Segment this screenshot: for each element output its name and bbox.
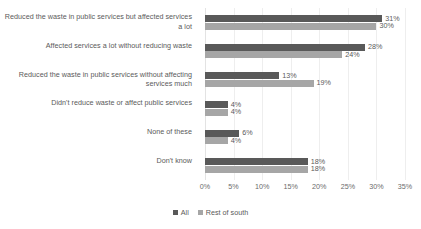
axis-tick-label: 10% [255,182,269,191]
axis-tick-label: 30% [369,182,383,191]
legend-label: Rest of south [206,208,248,217]
axis-tick-label: 5% [228,182,238,191]
gridline-15% [291,8,292,180]
legend-item[interactable]: Rest of south [198,208,248,217]
bar-rest-of-south [205,80,314,87]
bar-all [205,72,279,79]
bar-group: 28%24% [205,44,405,59]
bar-rest-of-south [205,109,228,116]
bar-value-label: 24% [342,51,359,59]
legend-swatch-icon [173,210,178,215]
bar-row: 31% [205,15,405,22]
value-axis: 0%5%10%15%20%25%30%35% [205,180,405,194]
chart-legend: AllRest of south [0,208,421,217]
gridline-25% [348,8,349,180]
axis-tick-label: 20% [312,182,326,191]
legend-item[interactable]: All [173,208,189,217]
bar-value-label: 19% [314,79,331,87]
axis-tick-label: 35% [398,182,412,191]
legend-swatch-icon [198,210,203,215]
bar-all [205,44,365,51]
plot-area: 31%30%28%24%13%19%4%4%6%4%18%18% [205,8,405,180]
gridline-35% [405,8,406,180]
bar-value-label: 4% [228,137,241,145]
category-label: Don't know [0,156,192,166]
bar-group: 31%30% [205,15,405,30]
category-axis: Reduced the waste in public services but… [0,8,198,180]
bar-rest-of-south [205,166,308,173]
bar-rest-of-south [205,51,342,58]
axis-tick-label: 15% [284,182,298,191]
bar-row: 18% [205,166,405,173]
bar-row: 30% [205,23,405,30]
bar-row: 28% [205,44,405,51]
bar-all [205,15,382,22]
bar-group: 6%4% [205,130,405,145]
bar-row: 4% [205,137,405,144]
gridline-20% [319,8,320,180]
bar-group: 4%4% [205,101,405,116]
axis-tick-label: 0% [200,182,210,191]
bar-row: 18% [205,158,405,165]
category-label: Reduced the waste in public services but… [0,12,192,31]
bar-value-label: 18% [308,165,325,173]
gridline-5% [234,8,235,180]
bar-value-label: 4% [228,108,241,116]
axis-tick-label: 25% [341,182,355,191]
bar-value-label: 30% [376,22,393,30]
category-label: None of these [0,127,192,137]
bar-value-label: 28% [365,43,382,51]
bar-chart: Reduced the waste in public services but… [0,0,421,229]
bar-rest-of-south [205,23,376,30]
gridline-10% [262,8,263,180]
bar-row: 13% [205,72,405,79]
bar-row: 4% [205,109,405,116]
bar-row: 19% [205,80,405,87]
category-label: Didn't reduce waste or affect public ser… [0,98,192,108]
gridline-0% [205,8,206,180]
bar-rest-of-south [205,137,228,144]
legend-label: All [181,208,189,217]
bar-row: 24% [205,51,405,58]
category-label: Reduced the waste in public services wit… [0,70,192,89]
bar-group: 13%19% [205,72,405,87]
bar-group: 18%18% [205,158,405,173]
bar-value-label: 6% [239,129,252,137]
gridline-30% [376,8,377,180]
bar-all [205,101,228,108]
bar-all [205,158,308,165]
category-label: Affected services a lot without reducing… [0,41,192,51]
bar-value-label: 13% [279,72,296,80]
